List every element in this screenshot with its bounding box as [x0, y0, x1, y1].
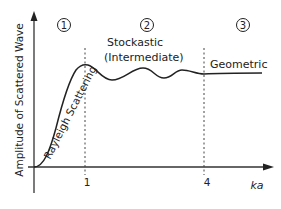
- intermediate-label: (Intermediate): [104, 51, 184, 64]
- scattering-regimes-diagram: 1 2 3 Rayleigh Scattering Stockastic (In…: [0, 0, 281, 209]
- x-tick-4: 4: [204, 176, 211, 188]
- y-axis-arrow-icon: [31, 11, 38, 21]
- region-2-marker: 2: [141, 19, 154, 32]
- x-axis-label: ka: [250, 179, 263, 192]
- x-axis-arrow-icon: [263, 164, 274, 171]
- geometric-label: Geometric: [210, 58, 267, 71]
- region-3-marker: 3: [237, 19, 250, 32]
- region-1-number: 1: [61, 20, 67, 31]
- x-tick-1: 1: [84, 176, 91, 188]
- stockastic-label: Stockastic: [107, 36, 163, 49]
- y-axis-label: Amplitude of Scattered Wave: [13, 23, 25, 177]
- rayleigh-scattering-label: Rayleigh Scattering: [41, 64, 98, 161]
- region-1-marker: 1: [58, 19, 71, 32]
- region-3-number: 3: [240, 20, 246, 31]
- region-2-number: 2: [144, 20, 150, 31]
